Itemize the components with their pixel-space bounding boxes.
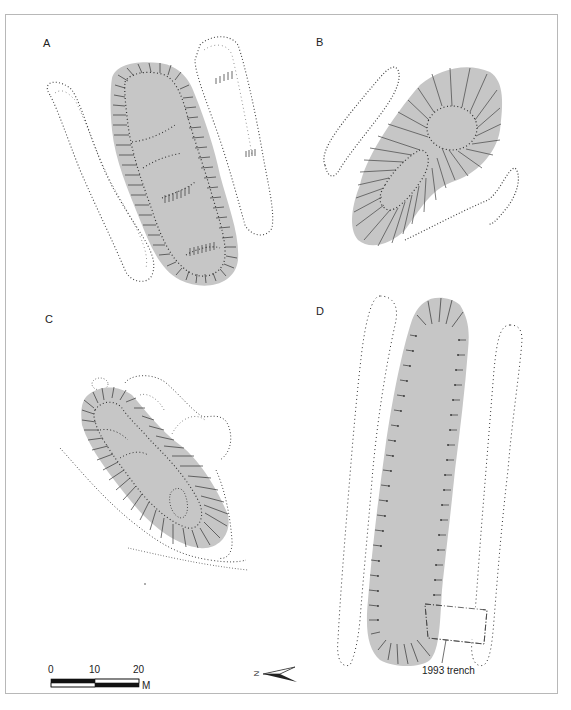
scale-unit: M	[142, 680, 150, 691]
scale-tick-0: 0	[48, 664, 54, 675]
scale-tick-10: 10	[89, 664, 100, 675]
panel-a-plan	[47, 37, 272, 286]
scale-bar	[51, 679, 139, 687]
earthwork-plans	[0, 0, 571, 710]
panel-b-plan	[324, 67, 519, 246]
north-label: N	[252, 671, 261, 677]
trench-label: 1993 trench	[422, 665, 475, 676]
scale-tick-20: 20	[133, 664, 144, 675]
north-arrow-icon	[263, 667, 297, 682]
panel-c-plan	[60, 376, 248, 585]
panel-d-plan	[338, 296, 522, 666]
